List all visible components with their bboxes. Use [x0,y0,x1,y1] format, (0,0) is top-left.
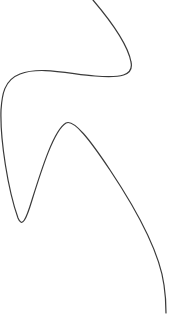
background [0,0,169,327]
curve-canvas [0,0,169,327]
